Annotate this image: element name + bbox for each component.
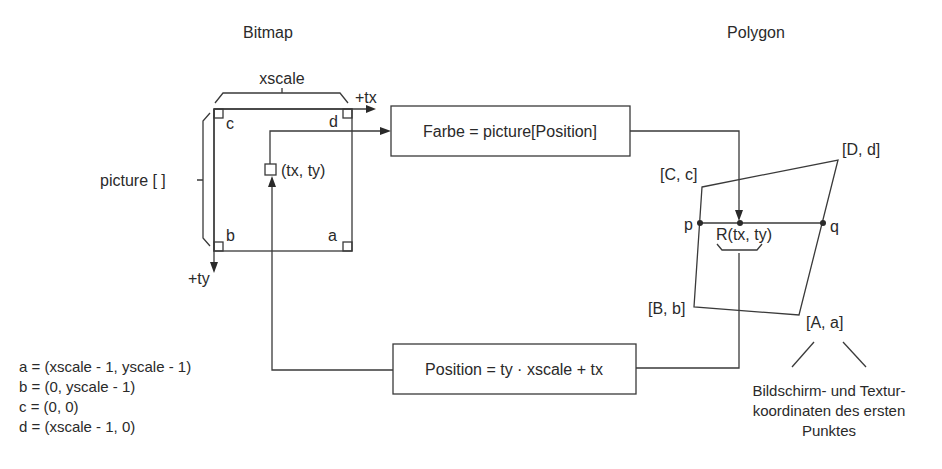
corner-D-label: [D, d] [842,141,880,158]
annotation-line-right [843,342,866,367]
corner-c-label: c [226,115,234,132]
feedback-arrow-icon [268,176,276,187]
picture-brace [197,113,210,246]
corner-c-marker [214,109,223,118]
corner-d-marker [343,109,352,118]
corner-definitions: a = (xscale - 1, yscale - 1) b = (0, ysc… [19,358,191,435]
picture-label: picture [ ] [100,172,166,189]
polygon-group: [C, c] [D, d] [B, b] [A, a] p q R(tx, ty… [648,141,906,439]
point-q-label: q [830,218,839,235]
r-brace [717,244,762,250]
ty-axis-label: +ty [188,270,210,287]
sample-point-label: (tx, ty) [281,162,325,179]
annotation-line-2: koordinaten des ersten [753,402,906,419]
annotation-line-left [792,342,814,367]
corner-A-label: [A, a] [806,314,843,331]
point-q-dot [820,220,826,226]
xscale-brace [215,88,348,103]
position-formula: Position = ty · xscale + tx [425,361,603,378]
sample-point-marker [265,164,276,175]
position-feedback-connector [272,186,393,370]
point-p-label: p [684,216,693,233]
definition-d: d = (xscale - 1, 0) [19,418,135,435]
annotation-line-3: Punktes [802,422,856,439]
corner-b-marker [214,242,223,251]
corner-b-label: b [226,227,235,244]
corner-C-label: [C, c] [660,166,697,183]
point-p-dot [697,220,703,226]
color-output-arrow-icon [735,210,743,221]
annotation-line-1: Bildschirm- und Textur- [752,382,905,399]
bitmap-title: Bitmap [243,24,293,41]
bitmap-group: xscale picture [ ] c d b a +tx +ty (tx, … [100,70,377,287]
corner-a-marker [343,242,352,251]
tx-axis-label: +tx [355,89,377,106]
point-r-label: R(tx, ty) [716,226,772,243]
farbe-formula: Farbe = picture[Position] [423,123,597,140]
xscale-label: xscale [259,70,304,87]
definition-a: a = (xscale - 1, yscale - 1) [19,358,191,375]
corner-d-label: d [329,113,338,130]
definition-b: b = (0, yscale - 1) [19,378,135,395]
lookup-arrow-icon [380,127,391,135]
definition-c: c = (0, 0) [19,398,79,415]
ty-arrow-icon [210,262,218,273]
texture-mapping-diagram: Bitmap Polygon xscale picture [ ] c d b … [0,0,942,469]
corner-a-label: a [328,227,337,244]
polygon-title: Polygon [727,24,785,41]
corner-B-label: [B, b] [648,300,685,317]
tx-arrow-icon [366,105,376,113]
lookup-connector [270,131,382,164]
